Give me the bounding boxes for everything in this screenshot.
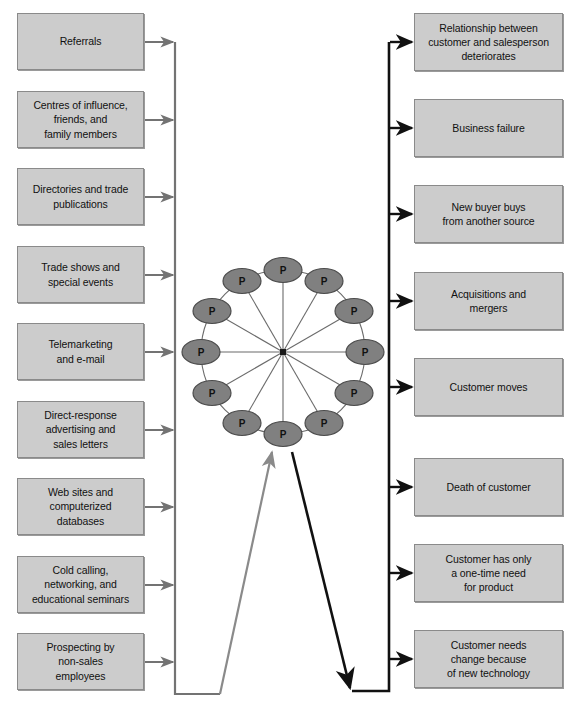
right-feeder-arrows — [390, 42, 412, 659]
left-to-wheel-arrow — [220, 452, 272, 694]
left-feeder-arrows — [145, 42, 173, 662]
prospecting-wheel-graphic — [182, 258, 384, 447]
loss-box-business-failure[interactable]: Business failure — [414, 99, 563, 157]
source-box-centres-of-influence[interactable]: Centres of influence, friends, and famil… — [17, 91, 144, 148]
source-box-label: Cold calling, networking, and educationa… — [32, 563, 129, 606]
loss-box-label: Business failure — [452, 121, 525, 135]
source-box-label: Web sites and computerized databases — [48, 485, 113, 528]
source-box-label: Telemarketing and e-mail — [48, 337, 112, 365]
loss-box-new-buyer[interactable]: New buyer buys from another source — [414, 185, 563, 243]
loss-box-label: Customer has only a one-time need for pr… — [446, 552, 532, 595]
loss-box-acquisitions-mergers[interactable]: Acquisitions and mergers — [414, 272, 563, 330]
source-box-prospecting-non-sales[interactable]: Prospecting by non-sales employees — [17, 633, 144, 690]
loss-box-label: Customer needs change because of new tec… — [447, 638, 530, 681]
loss-box-one-time-need[interactable]: Customer has only a one-time need for pr… — [414, 544, 563, 602]
source-box-directories[interactable]: Directories and trade publications — [17, 168, 144, 225]
loss-box-label: Acquisitions and mergers — [451, 287, 526, 315]
source-box-direct-response[interactable]: Direct-response advertising and sales le… — [17, 401, 144, 458]
loss-box-label: Customer moves — [450, 380, 528, 394]
loss-box-label: Relationship between customer and salesp… — [428, 21, 549, 64]
source-box-referrals[interactable]: Referrals — [17, 13, 144, 70]
loss-box-customer-moves[interactable]: Customer moves — [414, 358, 563, 416]
source-box-label: Centres of influence, friends, and famil… — [33, 98, 127, 141]
diagram-canvas: Referrals Centres of influence, friends,… — [0, 0, 577, 705]
loss-box-death-of-customer[interactable]: Death of customer — [414, 458, 563, 516]
source-box-label: Referrals — [60, 34, 102, 48]
loss-box-new-technology[interactable]: Customer needs change because of new tec… — [414, 630, 563, 688]
loss-box-relationship-deteriorates[interactable]: Relationship between customer and salesp… — [414, 13, 563, 71]
source-box-telemarketing[interactable]: Telemarketing and e-mail — [17, 323, 144, 380]
source-box-cold-calling[interactable]: Cold calling, networking, and educationa… — [17, 556, 144, 613]
loss-box-label: Death of customer — [446, 480, 530, 494]
source-box-label: Prospecting by non-sales employees — [46, 640, 114, 683]
left-bus — [175, 42, 220, 694]
source-box-trade-shows[interactable]: Trade shows and special events — [17, 246, 144, 303]
source-box-web-sites[interactable]: Web sites and computerized databases — [17, 478, 144, 535]
loss-box-label: New buyer buys from another source — [442, 200, 534, 228]
source-box-label: Directories and trade publications — [33, 182, 128, 210]
source-box-label: Direct-response advertising and sales le… — [44, 408, 117, 451]
right-bus — [352, 42, 389, 691]
wheel-to-right-arrow — [292, 452, 350, 688]
source-box-label: Trade shows and special events — [41, 260, 120, 288]
